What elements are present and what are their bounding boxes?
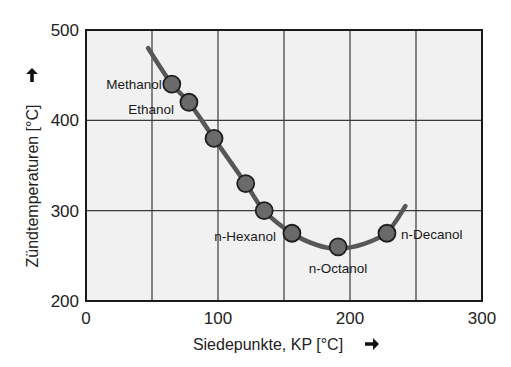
data-point-marker	[378, 225, 395, 242]
x-tick-label: 0	[81, 309, 90, 328]
point-label: Ethanol	[128, 102, 174, 117]
arrow-right-icon	[365, 338, 379, 350]
x-axis-title: Siedepunkte, KP [°C]	[193, 336, 379, 353]
y-tick-label: 400	[51, 111, 79, 130]
point-label: n-Decanol	[401, 227, 463, 242]
y-tick-label: 500	[51, 21, 79, 40]
point-label: n-Hexanol	[214, 229, 276, 244]
y-tick-label: 300	[51, 202, 79, 221]
x-tick-label: 300	[468, 309, 496, 328]
point-label: n-Octanol	[309, 261, 368, 276]
data-point-marker	[180, 94, 197, 111]
point-label: Methanol	[106, 77, 162, 92]
data-point-marker	[206, 130, 223, 147]
x-axis-label: Siedepunkte, KP [°C]	[193, 336, 343, 353]
data-point-marker	[283, 225, 300, 242]
y-axis-ticks: 200300400500	[51, 21, 79, 311]
arrow-up-icon	[26, 68, 38, 82]
data-point-marker	[237, 175, 254, 192]
x-tick-label: 100	[204, 309, 232, 328]
data-point-marker	[163, 76, 180, 93]
ignition-vs-boiling-chart: MethanolEthanoln-Hexanoln-Octanoln-Decan…	[0, 0, 511, 367]
x-tick-label: 200	[336, 309, 364, 328]
data-point-marker	[256, 202, 273, 219]
data-point-marker	[330, 238, 347, 255]
x-axis-ticks: 0100200300	[81, 309, 496, 328]
y-axis-title: Zündtemperaturen [°C]	[24, 68, 41, 267]
y-tick-label: 200	[51, 292, 79, 311]
y-axis-label: Zündtemperaturen [°C]	[24, 105, 41, 268]
